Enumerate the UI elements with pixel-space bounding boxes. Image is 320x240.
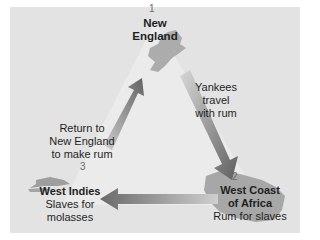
node-name-line1: New bbox=[120, 17, 190, 30]
node-name: West Indies bbox=[34, 185, 106, 198]
edge-label-line: to make rum bbox=[42, 148, 122, 161]
node-number-3: 3 bbox=[80, 161, 86, 172]
node-west-africa: West Coast of Africa Rum for slaves bbox=[200, 184, 300, 223]
edge-label-to-new-england: Return to New England to make rum bbox=[42, 122, 122, 161]
edge-label-line: Return to bbox=[42, 122, 122, 135]
node-name-line1: West Coast bbox=[200, 184, 300, 197]
node-number-2: 2 bbox=[232, 171, 238, 182]
edge-label-line: travel bbox=[186, 94, 246, 107]
node-west-indies: West Indies Slaves for molasses bbox=[34, 185, 106, 224]
node-desc-line1: Slaves for bbox=[34, 198, 106, 211]
node-name-line2: of Africa bbox=[200, 197, 300, 210]
edge-label-line: Yankees bbox=[186, 81, 246, 94]
node-desc: Rum for slaves bbox=[200, 210, 300, 223]
edge-label-to-africa: Yankees travel with rum bbox=[186, 81, 246, 120]
node-name-line2: England bbox=[120, 30, 190, 43]
node-new-england: New England bbox=[120, 17, 190, 43]
node-desc-line2: molasses bbox=[34, 211, 106, 224]
node-number-1: 1 bbox=[149, 3, 155, 14]
edge-label-line: with rum bbox=[186, 107, 246, 120]
edge-label-line: New England bbox=[42, 135, 122, 148]
